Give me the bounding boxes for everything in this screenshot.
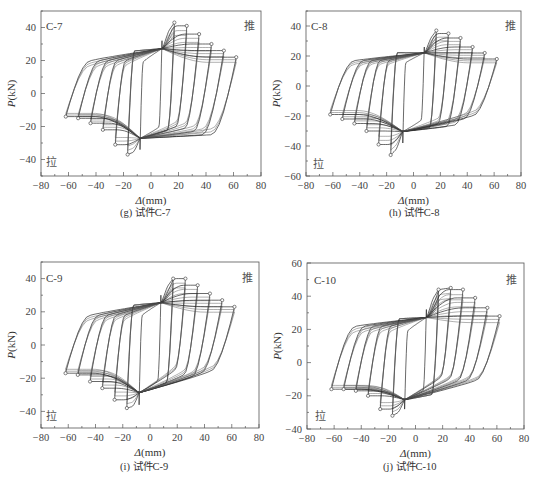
y-tick-label: 20 bbox=[291, 51, 302, 62]
hysteresis-loops bbox=[66, 279, 235, 409]
x-tick-label: 40 bbox=[201, 180, 212, 191]
y-tick-label: −40 bbox=[286, 424, 302, 435]
specimen-label: C-8 bbox=[311, 20, 328, 32]
x-tick-label: −80 bbox=[299, 433, 315, 444]
specimen-label: C-9 bbox=[46, 272, 63, 284]
chart-panel-c10: −80−60−40−20020406080Δ(mm)−40−200204060P… bbox=[271, 258, 529, 474]
hysteresis-loop bbox=[78, 303, 222, 393]
plot-frame bbox=[306, 11, 521, 176]
x-tick-label: 80 bbox=[519, 433, 530, 444]
y-tick-label: 0 bbox=[31, 340, 36, 351]
y-axis: −40−2002040P(kN) bbox=[5, 11, 45, 176]
y-tick-label: −40 bbox=[20, 154, 36, 165]
x-tick-label: −60 bbox=[325, 180, 341, 191]
y-tick-label: 40 bbox=[292, 291, 303, 302]
peak-marker bbox=[486, 306, 489, 309]
peak-marker bbox=[447, 32, 450, 35]
peak-marker bbox=[474, 296, 477, 299]
peak-marker bbox=[101, 387, 104, 390]
x-tick-label: 0 bbox=[411, 180, 416, 191]
x-tick-label: −40 bbox=[352, 180, 368, 191]
y-axis: −40−2002040P(kN) bbox=[5, 262, 45, 428]
peak-marker bbox=[76, 373, 79, 376]
y-tick-label: 60 bbox=[292, 258, 303, 269]
peak-markers bbox=[329, 29, 499, 157]
y-tick-label: −20 bbox=[20, 121, 36, 132]
x-tick-label: −20 bbox=[115, 432, 131, 443]
x-axis: −80−60−40−20020406080Δ(mm) bbox=[33, 172, 266, 207]
peak-marker bbox=[365, 129, 368, 132]
y-tick-label: −20 bbox=[20, 373, 36, 384]
peak-marker bbox=[88, 380, 91, 383]
y-tick-label: −20 bbox=[286, 390, 302, 401]
plot-area: −80−60−40−20020406080Δ(mm)−40−2002040P(k… bbox=[5, 11, 266, 207]
x-axis: −80−60−40−20020406080Δ(mm) bbox=[299, 425, 529, 460]
peak-marker bbox=[77, 117, 80, 120]
hysteresis-loops bbox=[330, 31, 497, 156]
peak-marker bbox=[366, 394, 369, 397]
peak-marker bbox=[341, 117, 344, 120]
peak-marker bbox=[437, 288, 440, 291]
peak-marker bbox=[125, 406, 128, 409]
peak-marker bbox=[185, 24, 188, 27]
plot-area: −80−60−40−20020406080Δ(mm)−60−40−2002040… bbox=[270, 11, 526, 207]
peak-marker bbox=[221, 299, 224, 302]
peak-marker bbox=[461, 288, 464, 291]
peak-marker bbox=[113, 398, 116, 401]
y-tick-label: 20 bbox=[292, 324, 303, 335]
x-tick-label: 0 bbox=[413, 433, 418, 444]
x-tick-label: 80 bbox=[254, 432, 265, 443]
panel-caption: (h) 试件C-8 bbox=[389, 207, 440, 219]
peak-marker bbox=[208, 292, 211, 295]
y-tick-label: −40 bbox=[20, 406, 36, 417]
x-tick-label: −80 bbox=[33, 180, 49, 191]
peak-marker bbox=[126, 153, 129, 156]
panel-caption: (i) 试件C-9 bbox=[120, 461, 168, 473]
pull-label: 拉 bbox=[315, 409, 326, 423]
peak-marker bbox=[114, 143, 117, 146]
x-tick-label: 60 bbox=[492, 433, 503, 444]
x-tick-label: 80 bbox=[516, 180, 527, 191]
peak-marker bbox=[184, 277, 187, 280]
x-tick-label: 40 bbox=[199, 432, 210, 443]
pull-label: 拉 bbox=[46, 155, 57, 169]
pull-label: 拉 bbox=[46, 409, 57, 423]
y-tick-label: 20 bbox=[26, 306, 37, 317]
y-axis-title: P(kN) bbox=[271, 332, 284, 361]
x-tick-label: 60 bbox=[489, 180, 500, 191]
x-axis: −80−60−40−20020406080Δ(mm) bbox=[298, 172, 526, 207]
y-tick-label: 40 bbox=[26, 273, 37, 284]
x-tick-label: 20 bbox=[435, 180, 446, 191]
y-tick-label: −20 bbox=[285, 111, 301, 122]
pull-label: 拉 bbox=[313, 157, 324, 171]
hysteresis-loop bbox=[342, 53, 484, 132]
plot-frame bbox=[307, 263, 524, 429]
y-axis: −40−200204060P(kN) bbox=[271, 258, 311, 435]
specimen-label: C-7 bbox=[46, 20, 63, 32]
peak-marker bbox=[389, 153, 392, 156]
peak-marker bbox=[459, 36, 462, 39]
peak-marker bbox=[471, 45, 474, 48]
x-tick-label: −40 bbox=[87, 432, 103, 443]
peak-marker bbox=[172, 277, 175, 280]
plot-area: −80−60−40−20020406080Δ(mm)−40−2002040P(k… bbox=[5, 262, 264, 459]
x-tick-label: 20 bbox=[437, 433, 448, 444]
x-tick-label: −80 bbox=[298, 180, 314, 191]
x-tick-label: 80 bbox=[256, 180, 267, 191]
y-tick-label: 0 bbox=[296, 81, 301, 92]
x-axis: −80−60−40−20020406080Δ(mm) bbox=[33, 424, 264, 459]
x-tick-label: 40 bbox=[462, 180, 473, 191]
push-label: 推 bbox=[506, 273, 517, 287]
peak-marker bbox=[222, 49, 225, 52]
peak-marker bbox=[198, 33, 201, 36]
peak-marker bbox=[233, 305, 236, 308]
peak-marker bbox=[89, 122, 92, 125]
x-axis-title: Δ(mm) bbox=[134, 446, 166, 459]
hysteresis-loop bbox=[115, 31, 187, 142]
peak-marker bbox=[196, 284, 199, 287]
peak-marker bbox=[329, 113, 332, 116]
y-tick-label: −60 bbox=[285, 171, 301, 182]
y-tick-label: 20 bbox=[26, 55, 37, 66]
hysteresis-figure: −80−60−40−20020406080Δ(mm)−40−2002040P(k… bbox=[0, 0, 535, 492]
x-tick-label: −20 bbox=[115, 180, 131, 191]
